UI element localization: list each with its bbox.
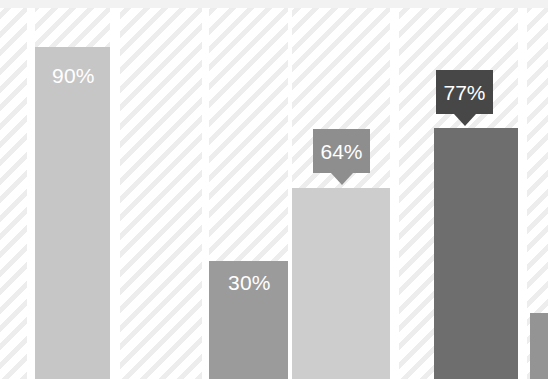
callout-64-label: 64% — [320, 141, 362, 162]
callout-64-pointer-icon — [331, 173, 353, 185]
bar-label-30: 30% — [228, 272, 271, 293]
bar-77[interactable] — [434, 128, 518, 379]
hatch-band — [120, 8, 202, 379]
callout-64[interactable]: 64% — [313, 129, 370, 173]
callout-77-pointer-icon — [454, 114, 476, 126]
bar-90[interactable] — [35, 47, 110, 379]
bar-partial-right[interactable] — [530, 313, 548, 379]
chart-top-strip — [0, 0, 548, 8]
callout-77-box: 77% — [436, 70, 493, 114]
callout-77[interactable]: 77% — [436, 70, 493, 114]
callout-64-box: 64% — [313, 129, 370, 173]
bar-chart: 90% 30% 64% 77% — [0, 0, 548, 379]
bar-64[interactable] — [292, 188, 390, 379]
hatch-band — [0, 8, 27, 379]
callout-77-label: 77% — [443, 82, 485, 103]
bar-label-90: 90% — [52, 65, 95, 86]
